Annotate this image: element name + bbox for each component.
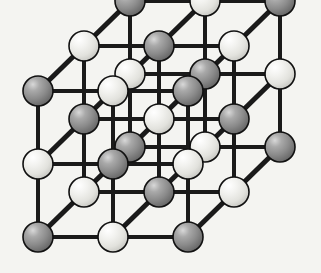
atom-light [219,177,249,207]
atom-dark [69,104,99,134]
atom-dark [173,222,203,252]
atom-light [173,149,203,179]
atom-light [69,31,99,61]
atom-dark [23,76,53,106]
atom-dark [173,76,203,106]
atom-dark [219,104,249,134]
crystal-lattice-figure [0,0,321,273]
atom-light [69,177,99,207]
atom-dark [144,177,174,207]
atom-dark [98,149,128,179]
atom-light [23,149,53,179]
atom-light [144,104,174,134]
lattice-diagram [0,0,321,273]
atom-light [219,31,249,61]
atom-dark [23,222,53,252]
atom-dark [144,31,174,61]
atom-light [98,222,128,252]
atom-dark [265,132,295,162]
atom-light [265,59,295,89]
atom-light [98,76,128,106]
